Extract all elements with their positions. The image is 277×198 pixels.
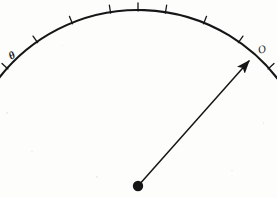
tick-mark: [238, 36, 243, 43]
tick-mark-group: [2, 3, 274, 69]
graduated-arc: [0, 10, 277, 90]
pointer-arrow: [138, 61, 249, 186]
diagram-svg: [0, 0, 277, 198]
pivot-dot: [133, 181, 143, 191]
tick-mark: [33, 36, 38, 43]
tick-mark: [2, 64, 8, 69]
tick-mark: [268, 64, 274, 69]
figure-canvas: θ O: [0, 0, 277, 198]
